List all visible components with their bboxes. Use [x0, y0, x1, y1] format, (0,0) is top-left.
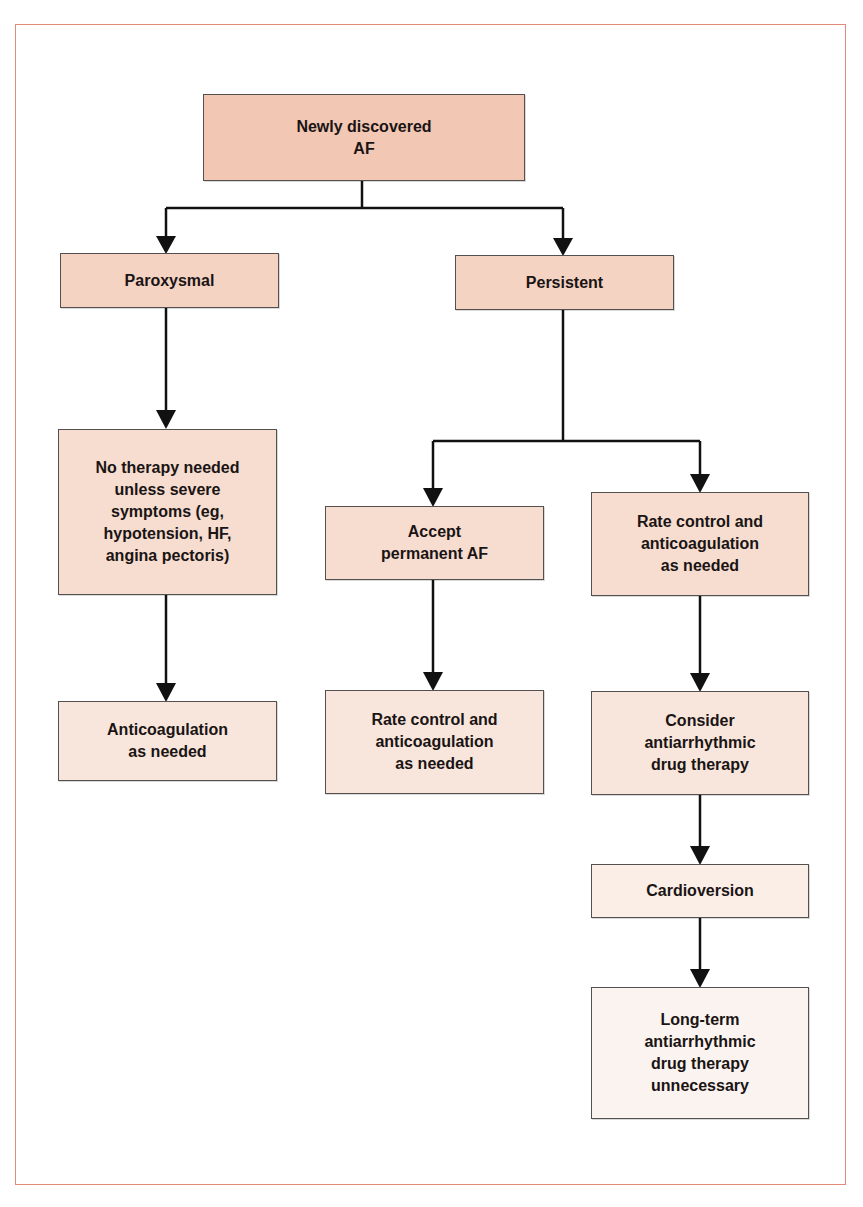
- node-label: Paroxysmal: [125, 270, 215, 292]
- node-accept-permanent-af: Accept permanent AF: [325, 506, 544, 580]
- node-label: Rate control and anticoagulation as need…: [371, 709, 497, 775]
- node-label: Anticoagulation as needed: [107, 719, 228, 763]
- node-anticoagulation: Anticoagulation as needed: [58, 701, 277, 781]
- node-consider-antiarrhythmic: Consider antiarrhythmic drug therapy: [591, 691, 809, 795]
- node-paroxysmal: Paroxysmal: [60, 253, 279, 308]
- node-label: Cardioversion: [646, 880, 754, 902]
- node-rate-control-right: Rate control and anticoagulation as need…: [591, 492, 809, 596]
- node-label: Rate control and anticoagulation as need…: [637, 511, 763, 577]
- node-label: Newly discovered AF: [296, 116, 431, 160]
- node-rate-control-mid: Rate control and anticoagulation as need…: [325, 690, 544, 794]
- node-long-term: Long-term antiarrhythmic drug therapy un…: [591, 987, 809, 1119]
- node-no-therapy-needed: No therapy needed unless severe symptoms…: [58, 429, 277, 595]
- node-cardioversion: Cardioversion: [591, 864, 809, 918]
- node-label: Persistent: [526, 272, 603, 294]
- node-label: No therapy needed unless severe symptoms…: [95, 457, 239, 567]
- node-persistent: Persistent: [455, 255, 674, 310]
- node-newly-discovered-af: Newly discovered AF: [203, 94, 525, 181]
- node-label: Consider antiarrhythmic drug therapy: [644, 710, 755, 776]
- node-label: Long-term antiarrhythmic drug therapy un…: [644, 1009, 755, 1097]
- node-label: Accept permanent AF: [381, 521, 488, 565]
